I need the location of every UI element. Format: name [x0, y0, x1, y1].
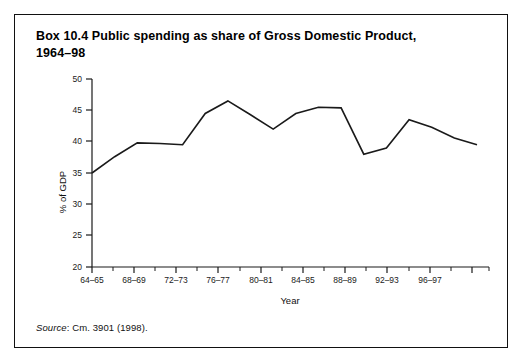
y-tick-label: 35 — [73, 168, 83, 178]
x-tick-label: 64–65 — [80, 275, 104, 285]
x-axis-title: Year — [280, 295, 299, 306]
x-tick-label: 80–81 — [249, 275, 273, 285]
y-tick-label: 30 — [73, 199, 83, 209]
y-tick-label: 25 — [73, 230, 83, 240]
source-label: Source — [36, 322, 67, 333]
x-axis-tick-labels: 64–65 68–69 72–73 76–77 80–81 84–85 88–8… — [80, 275, 442, 285]
y-axis-tick-labels: 50 45 40 35 30 25 20 — [73, 74, 83, 272]
y-axis-title: % of GDP — [57, 171, 68, 213]
x-tick-label: 68–69 — [122, 275, 146, 285]
chart-area: 50 45 40 35 30 25 20 % of GDP — [0, 0, 522, 362]
series-line-gdp-share — [92, 101, 477, 173]
y-axis-ticks — [86, 79, 92, 267]
line-chart: 50 45 40 35 30 25 20 % of GDP — [0, 0, 522, 362]
x-tick-label: 72–73 — [164, 275, 188, 285]
x-axis-ticks — [92, 267, 489, 273]
screenshot-root: Box 10.4 Public spending as share of Gro… — [0, 0, 522, 362]
source-text: : Cm. 3901 (1998). — [67, 322, 148, 333]
x-tick-label: 76–77 — [206, 275, 230, 285]
x-tick-label: 84–85 — [291, 275, 315, 285]
y-tick-label: 20 — [73, 262, 83, 272]
y-tick-label: 50 — [73, 74, 83, 84]
x-tick-label: 96–97 — [418, 275, 442, 285]
y-tick-label: 45 — [73, 105, 83, 115]
source-note: Source: Cm. 3901 (1998). — [36, 322, 148, 333]
x-tick-label: 88–89 — [333, 275, 357, 285]
y-tick-label: 40 — [73, 136, 83, 146]
x-tick-label: 92–93 — [375, 275, 399, 285]
